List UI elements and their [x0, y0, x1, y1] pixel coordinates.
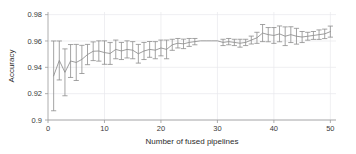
axis-lines: [48, 12, 336, 120]
y-tick-labels: 0.90.920.940.960.98: [27, 10, 42, 124]
x-tick-label: 40: [270, 124, 278, 133]
x-tick-label: 50: [326, 124, 334, 133]
tick-marks: [45, 15, 330, 123]
y-tick-label: 0.9: [32, 116, 42, 125]
x-tick-label: 20: [157, 124, 165, 133]
accuracy-vs-pipelines-chart: 01020304050 0.90.920.940.960.98 Number o…: [0, 0, 356, 154]
y-tick-label: 0.92: [27, 89, 42, 98]
x-tick-labels: 01020304050: [46, 124, 335, 133]
y-tick-label: 0.94: [27, 63, 42, 72]
chart-canvas: 01020304050 0.90.920.940.960.98 Number o…: [0, 0, 356, 154]
accuracy-series-line: [54, 32, 331, 76]
y-tick-label: 0.96: [27, 37, 42, 46]
gridlines: [48, 12, 336, 120]
y-tick-label: 0.98: [27, 10, 42, 19]
x-axis-title: Number of fused pipelines: [146, 137, 239, 146]
x-tick-label: 10: [100, 124, 108, 133]
x-tick-label: 0: [46, 124, 50, 133]
y-axis-title: Accuracy: [7, 50, 16, 83]
x-tick-label: 30: [213, 124, 221, 133]
